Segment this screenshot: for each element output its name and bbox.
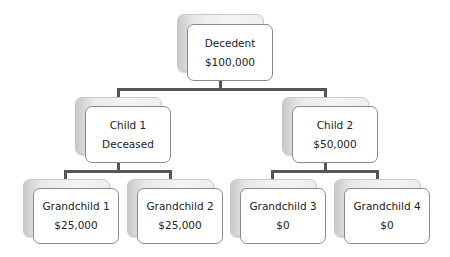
child-2-node: Child 2 $50,000 [292,106,378,163]
child-2-title: Child 2 [317,116,354,135]
child-1-node: Child 1 Deceased [85,106,171,163]
grandchild-4-title: Grandchild 4 [353,197,420,216]
connector-child-2-horizontal [271,170,379,173]
connector-child-1-horizontal [64,170,172,173]
grandchild-1-value: $25,000 [54,216,97,235]
grandchild-2-title: Grandchild 2 [146,197,213,216]
grandchild-4-node: Grandchild 4 $0 [344,188,430,244]
root-node: Decedent $100,000 [187,24,273,81]
child-1-value: Deceased [102,135,154,154]
root-node-title: Decedent [205,34,256,53]
root-node-value: $100,000 [205,53,255,72]
grandchild-4-value: $0 [380,216,393,235]
child-1-title: Child 1 [110,116,147,135]
grandchild-3-title: Grandchild 3 [249,197,316,216]
child-2-value: $50,000 [313,135,356,154]
grandchild-2-value: $25,000 [158,216,201,235]
grandchild-1-node: Grandchild 1 $25,000 [33,188,119,244]
grandchild-1-title: Grandchild 1 [42,197,109,216]
grandchild-2-node: Grandchild 2 $25,000 [137,188,223,244]
grandchild-3-value: $0 [276,216,289,235]
grandchild-3-node: Grandchild 3 $0 [240,188,326,244]
connector-root-horizontal [117,88,327,91]
